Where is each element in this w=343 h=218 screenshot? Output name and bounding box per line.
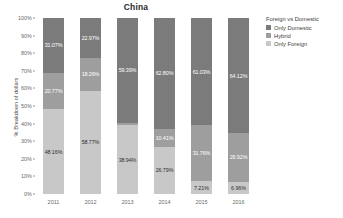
y-tick-label: 90% <box>21 33 32 39</box>
x-tick-label: 2014 <box>158 199 170 205</box>
plot-area: 0%10%20%30%40%50%60%70%80%90%100% 31.07%… <box>35 18 257 194</box>
stacked-bar[interactable]: 61.03%31.76%7.21% <box>191 18 212 194</box>
legend-item-list: Only DomesticHybridOnly Foreign <box>266 25 342 47</box>
bar-group: 61.03%31.76%7.21% <box>183 18 220 194</box>
chart-legend: Foreign vs Domestic Only DomesticHybridO… <box>266 16 342 49</box>
bar-segment-label: 31.76% <box>193 150 211 156</box>
bar-segment-label: 61.03% <box>193 69 211 75</box>
legend-swatch-icon <box>266 41 271 46</box>
chart-title: China <box>0 2 272 12</box>
bar-segment-label: 26.92% <box>230 154 248 160</box>
bar-segment-label: 48.16% <box>45 149 63 155</box>
bar-group: 22.97%18.26%58.77% <box>72 18 109 194</box>
x-tick-label: 2013 <box>121 199 133 205</box>
y-tick-label: 100% <box>18 15 32 21</box>
bar-segment[interactable]: 48.16% <box>43 109 64 194</box>
legend-label: Hybrid <box>274 33 291 39</box>
legend-item[interactable]: Hybrid <box>266 33 342 39</box>
y-tick-label: 20% <box>21 156 32 162</box>
y-tick-label: 40% <box>21 121 32 127</box>
y-tick-label: 30% <box>21 138 32 144</box>
bar-segment[interactable]: 7.21% <box>191 181 212 194</box>
bar-segment-label: 18.26% <box>82 71 100 77</box>
bar-segment[interactable]: 18.26% <box>80 58 101 90</box>
bar-segment-label: 62.80% <box>156 70 174 76</box>
stacked-bar[interactable]: 62.80%10.41%26.79% <box>154 18 175 194</box>
bar-series-group: 31.07%20.77%48.16%22.97%18.26%58.77%59.3… <box>35 18 257 194</box>
x-tick-label: 2016 <box>232 199 244 205</box>
bar-segment-label: 7.21% <box>194 185 209 191</box>
y-tick-label: 0% <box>24 191 32 197</box>
y-axis-label: % Breakdown of dollars <box>13 47 19 167</box>
bar-segment[interactable]: 38.94% <box>117 125 138 194</box>
x-tick-label: 2011 <box>48 199 60 205</box>
bar-segment-label: 64.12% <box>230 73 248 79</box>
stacked-bar[interactable]: 31.07%20.77%48.16% <box>43 18 64 194</box>
bar-segment[interactable]: 26.79% <box>154 147 175 194</box>
legend-title: Foreign vs Domestic <box>266 16 342 22</box>
y-tick-label: 60% <box>21 85 32 91</box>
bar-segment[interactable]: 62.80% <box>154 18 175 129</box>
bar-segment-label: 10.41% <box>156 135 174 141</box>
bar-segment[interactable]: 61.03% <box>191 18 212 125</box>
bar-segment-label: 31.07% <box>45 42 63 48</box>
stacked-bar[interactable]: 59.39%38.94% <box>117 18 138 194</box>
y-tick-label: 50% <box>21 103 32 109</box>
x-tick-label: 2015 <box>195 199 207 205</box>
legend-swatch-icon <box>266 33 271 38</box>
bar-segment[interactable]: 31.07% <box>43 18 64 73</box>
bar-segment-label: 58.77% <box>82 139 100 145</box>
stacked-bar[interactable]: 64.12%26.92%6.96% <box>228 18 249 194</box>
bar-segment[interactable]: 20.77% <box>43 73 64 110</box>
x-tick-label: 2012 <box>84 199 96 205</box>
legend-item[interactable]: Only Foreign <box>266 41 342 47</box>
bar-segment-label: 22.97% <box>82 35 100 41</box>
bar-segment[interactable]: 22.97% <box>80 18 101 58</box>
bar-segment[interactable]: 6.96% <box>228 182 249 195</box>
bar-group: 59.39%38.94% <box>109 18 146 194</box>
bar-segment-label: 6.96% <box>231 185 246 191</box>
bar-segment[interactable]: 26.92% <box>228 133 249 181</box>
x-axis-ticks: 201120122013201420152016 <box>35 194 257 210</box>
bar-segment[interactable]: 31.76% <box>191 125 212 181</box>
bar-segment-label: 38.94% <box>119 157 137 163</box>
bar-group: 31.07%20.77%48.16% <box>35 18 72 194</box>
y-tick-label: 70% <box>21 68 32 74</box>
bar-segment[interactable]: 59.39% <box>117 18 138 123</box>
bar-segment[interactable]: 64.12% <box>228 18 249 133</box>
chart-container: China % Breakdown of dollars 0%10%20%30%… <box>0 0 343 218</box>
bar-group: 64.12%26.92%6.96% <box>220 18 257 194</box>
stacked-bar[interactable]: 22.97%18.26%58.77% <box>80 18 101 194</box>
legend-item[interactable]: Only Domestic <box>266 25 342 31</box>
legend-label: Only Foreign <box>274 41 307 47</box>
y-tick-label: 80% <box>21 50 32 56</box>
bar-segment-label: 26.79% <box>156 167 174 173</box>
bar-segment-label: 20.77% <box>45 88 63 94</box>
bar-segment[interactable]: 58.77% <box>80 91 101 194</box>
legend-swatch-icon <box>266 25 271 30</box>
legend-label: Only Domestic <box>274 25 312 31</box>
bar-group: 62.80%10.41%26.79% <box>146 18 183 194</box>
bar-segment-label: 59.39% <box>119 67 137 73</box>
y-tick-label: 10% <box>21 173 32 179</box>
bar-segment[interactable]: 10.41% <box>154 129 175 147</box>
